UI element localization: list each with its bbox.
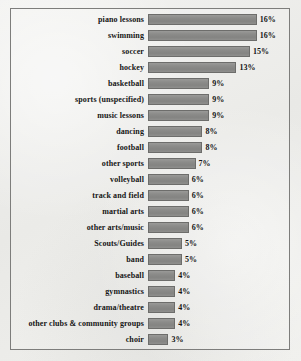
bar-fill	[148, 238, 182, 249]
bar-row: soccer15%	[11, 46, 289, 57]
bar-fill	[148, 126, 202, 137]
bar-row: football8%	[11, 142, 289, 153]
bar-fill	[148, 62, 236, 73]
bar-row: gymnastics4%	[11, 286, 289, 297]
bar-category-label: baseball	[0, 270, 144, 281]
bar-value-label: 9%	[212, 94, 224, 105]
bar-fill	[148, 206, 189, 217]
bar-fill	[148, 318, 175, 329]
bar-value-label: 15%	[253, 46, 269, 57]
bar-fill	[148, 334, 168, 345]
bar-fill	[148, 174, 189, 185]
bar-category-label: piano lessons	[0, 14, 144, 25]
bar-track: soccer15%	[148, 46, 289, 57]
bar-value-label: 13%	[239, 62, 255, 73]
bar-track: sports (unspecified)9%	[148, 94, 289, 105]
bar-category-label: sports (unspecified)	[0, 94, 144, 105]
bar-category-label: hockey	[0, 62, 144, 73]
plot-area: piano lessons16%swimming16%soccer15%hock…	[11, 9, 289, 349]
bar-track: dancing8%	[148, 126, 289, 137]
bar-row: choir3%	[11, 334, 289, 345]
bar-row: swimming16%	[11, 30, 289, 41]
bar-value-label: 3%	[171, 334, 183, 345]
bar-track: other clubs & community groups4%	[148, 318, 289, 329]
bar-fill	[148, 30, 257, 41]
bar-fill	[148, 110, 209, 121]
bar-category-label: other sports	[0, 158, 144, 169]
bar-category-label: other clubs & community groups	[0, 318, 144, 329]
bar-category-label: basketball	[0, 78, 144, 89]
bar-category-label: track and field	[0, 190, 144, 201]
bar-value-label: 6%	[192, 190, 204, 201]
bar-fill	[148, 78, 209, 89]
bar-category-label: volleyball	[0, 174, 144, 185]
bar-track: baseball4%	[148, 270, 289, 281]
bar-value-label: 4%	[178, 302, 190, 313]
bar-row: band5%	[11, 254, 289, 265]
bar-category-label: martial arts	[0, 206, 144, 217]
bar-value-label: 4%	[178, 286, 190, 297]
bar-track: martial arts6%	[148, 206, 289, 217]
bar-category-label: swimming	[0, 30, 144, 41]
bar-fill	[148, 158, 196, 169]
bar-row: dancing8%	[11, 126, 289, 137]
bar-track: gymnastics4%	[148, 286, 289, 297]
bar-value-label: 4%	[178, 318, 190, 329]
bar-track: swimming16%	[148, 30, 289, 41]
bar-category-label: Scouts/Guides	[0, 238, 144, 249]
bar-track: choir3%	[148, 334, 289, 345]
bar-track: other arts/music6%	[148, 222, 289, 233]
bar-track: hockey13%	[148, 62, 289, 73]
bar-track: football8%	[148, 142, 289, 153]
bar-row: music lessons9%	[11, 110, 289, 121]
bar-track: music lessons9%	[148, 110, 289, 121]
bar-value-label: 9%	[212, 110, 224, 121]
bar-value-label: 5%	[185, 238, 197, 249]
bar-category-label: drama/theatre	[0, 302, 144, 313]
bar-row: sports (unspecified)9%	[11, 94, 289, 105]
bar-category-label: music lessons	[0, 110, 144, 121]
bar-value-label: 16%	[260, 14, 276, 25]
bar-category-label: gymnastics	[0, 286, 144, 297]
bar-value-label: 8%	[205, 126, 217, 137]
bar-category-label: choir	[0, 334, 144, 345]
bar-value-label: 5%	[185, 254, 197, 265]
bar-row: martial arts6%	[11, 206, 289, 217]
bar-fill	[148, 286, 175, 297]
bar-fill	[148, 46, 250, 57]
bar-value-label: 4%	[178, 270, 190, 281]
bar-value-label: 6%	[192, 206, 204, 217]
bar-fill	[148, 142, 202, 153]
bar-value-label: 16%	[260, 30, 276, 41]
bar-fill	[148, 302, 175, 313]
bar-value-label: 9%	[212, 78, 224, 89]
bar-row: baseball4%	[11, 270, 289, 281]
bar-row: piano lessons16%	[11, 14, 289, 25]
bar-value-label: 6%	[192, 174, 204, 185]
bar-row: volleyball6%	[11, 174, 289, 185]
bar-row: basketball9%	[11, 78, 289, 89]
bar-value-label: 7%	[199, 158, 211, 169]
bar-track: other sports7%	[148, 158, 289, 169]
bar-track: band5%	[148, 254, 289, 265]
bar-row: track and field6%	[11, 190, 289, 201]
bar-category-label: band	[0, 254, 144, 265]
bar-category-label: other arts/music	[0, 222, 144, 233]
bar-track: drama/theatre4%	[148, 302, 289, 313]
bar-row: drama/theatre4%	[11, 302, 289, 313]
bar-track: piano lessons16%	[148, 14, 289, 25]
bar-fill	[148, 270, 175, 281]
bar-row: other arts/music6%	[11, 222, 289, 233]
bar-track: basketball9%	[148, 78, 289, 89]
bar-track: track and field6%	[148, 190, 289, 201]
bar-value-label: 6%	[192, 222, 204, 233]
bar-category-label: dancing	[0, 126, 144, 137]
bar-fill	[148, 254, 182, 265]
bar-category-label: football	[0, 142, 144, 153]
bar-category-label: soccer	[0, 46, 144, 57]
bar-row: hockey13%	[11, 62, 289, 73]
bar-fill	[148, 94, 209, 105]
bar-fill	[148, 190, 189, 201]
bar-track: Scouts/Guides5%	[148, 238, 289, 249]
bar-fill	[148, 14, 257, 25]
